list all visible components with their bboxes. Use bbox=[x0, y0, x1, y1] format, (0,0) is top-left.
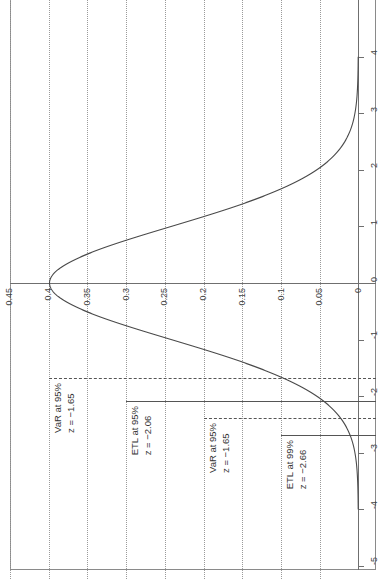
density-curve bbox=[0, 0, 387, 579]
chart-canvas: 4 3 2 1 0 -1 -2 -3 -4 -5 0.45 0.4 0.35 0… bbox=[0, 0, 387, 579]
